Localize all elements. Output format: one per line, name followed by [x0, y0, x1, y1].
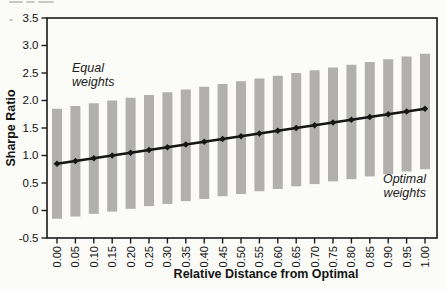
- x-tick-label: 0.45: [217, 246, 229, 267]
- sharpe-ratio-chart: 3.53.02.52.01.51.00.50-0.50.000.050.100.…: [0, 0, 446, 291]
- x-tick-label: 0.20: [125, 246, 137, 267]
- x-tick-label: 0.55: [253, 246, 265, 267]
- x-axis-title: Relative Distance from Optimal: [174, 267, 359, 281]
- x-tick-label: 0.65: [290, 246, 302, 267]
- x-tick-label: 0.85: [364, 246, 376, 267]
- x-tick-label: 0.10: [88, 246, 100, 267]
- x-tick-label: 0.05: [69, 246, 81, 267]
- annotation-optimal-weights: Optimal weights: [383, 173, 426, 200]
- y-tick-label: -0.5: [19, 232, 39, 244]
- y-tick-label: 1.0: [23, 149, 39, 161]
- x-tick-label: 0.60: [272, 246, 284, 267]
- y-tick-label: 0.5: [23, 177, 39, 189]
- y-tick-label: 1.5: [23, 122, 39, 134]
- y-axis-title: Sharpe Ratio: [4, 18, 20, 238]
- y-tick-label: 3.0: [23, 39, 39, 51]
- x-tick-label: 0.90: [382, 246, 394, 267]
- x-tick-label: 0.75: [327, 246, 339, 267]
- x-tick-label: 0.95: [401, 246, 413, 267]
- annotation-equal-weights: Equal weights: [72, 62, 114, 89]
- y-tick-label: 3.5: [23, 12, 39, 24]
- y-tick-label: 2.0: [23, 94, 39, 106]
- y-tick-label: 0: [32, 204, 38, 216]
- sharpe-ratio-figure: 3.53.02.52.01.51.00.50-0.50.000.050.100.…: [0, 0, 446, 291]
- x-tick-label: 0.25: [143, 246, 155, 267]
- x-tick-label: 0.40: [198, 246, 210, 267]
- x-tick-label: 0.50: [235, 246, 247, 267]
- x-tick-label: 0.15: [106, 246, 118, 267]
- y-tick-label: 2.5: [23, 67, 39, 79]
- x-tick-label: 0.80: [345, 246, 357, 267]
- x-tick-label: 0.30: [161, 246, 173, 267]
- x-tick-label: 0.70: [309, 246, 321, 267]
- x-tick-label: 0.00: [51, 246, 63, 267]
- x-tick-label: 0.35: [180, 246, 192, 267]
- x-tick-label: 1.00: [419, 246, 431, 267]
